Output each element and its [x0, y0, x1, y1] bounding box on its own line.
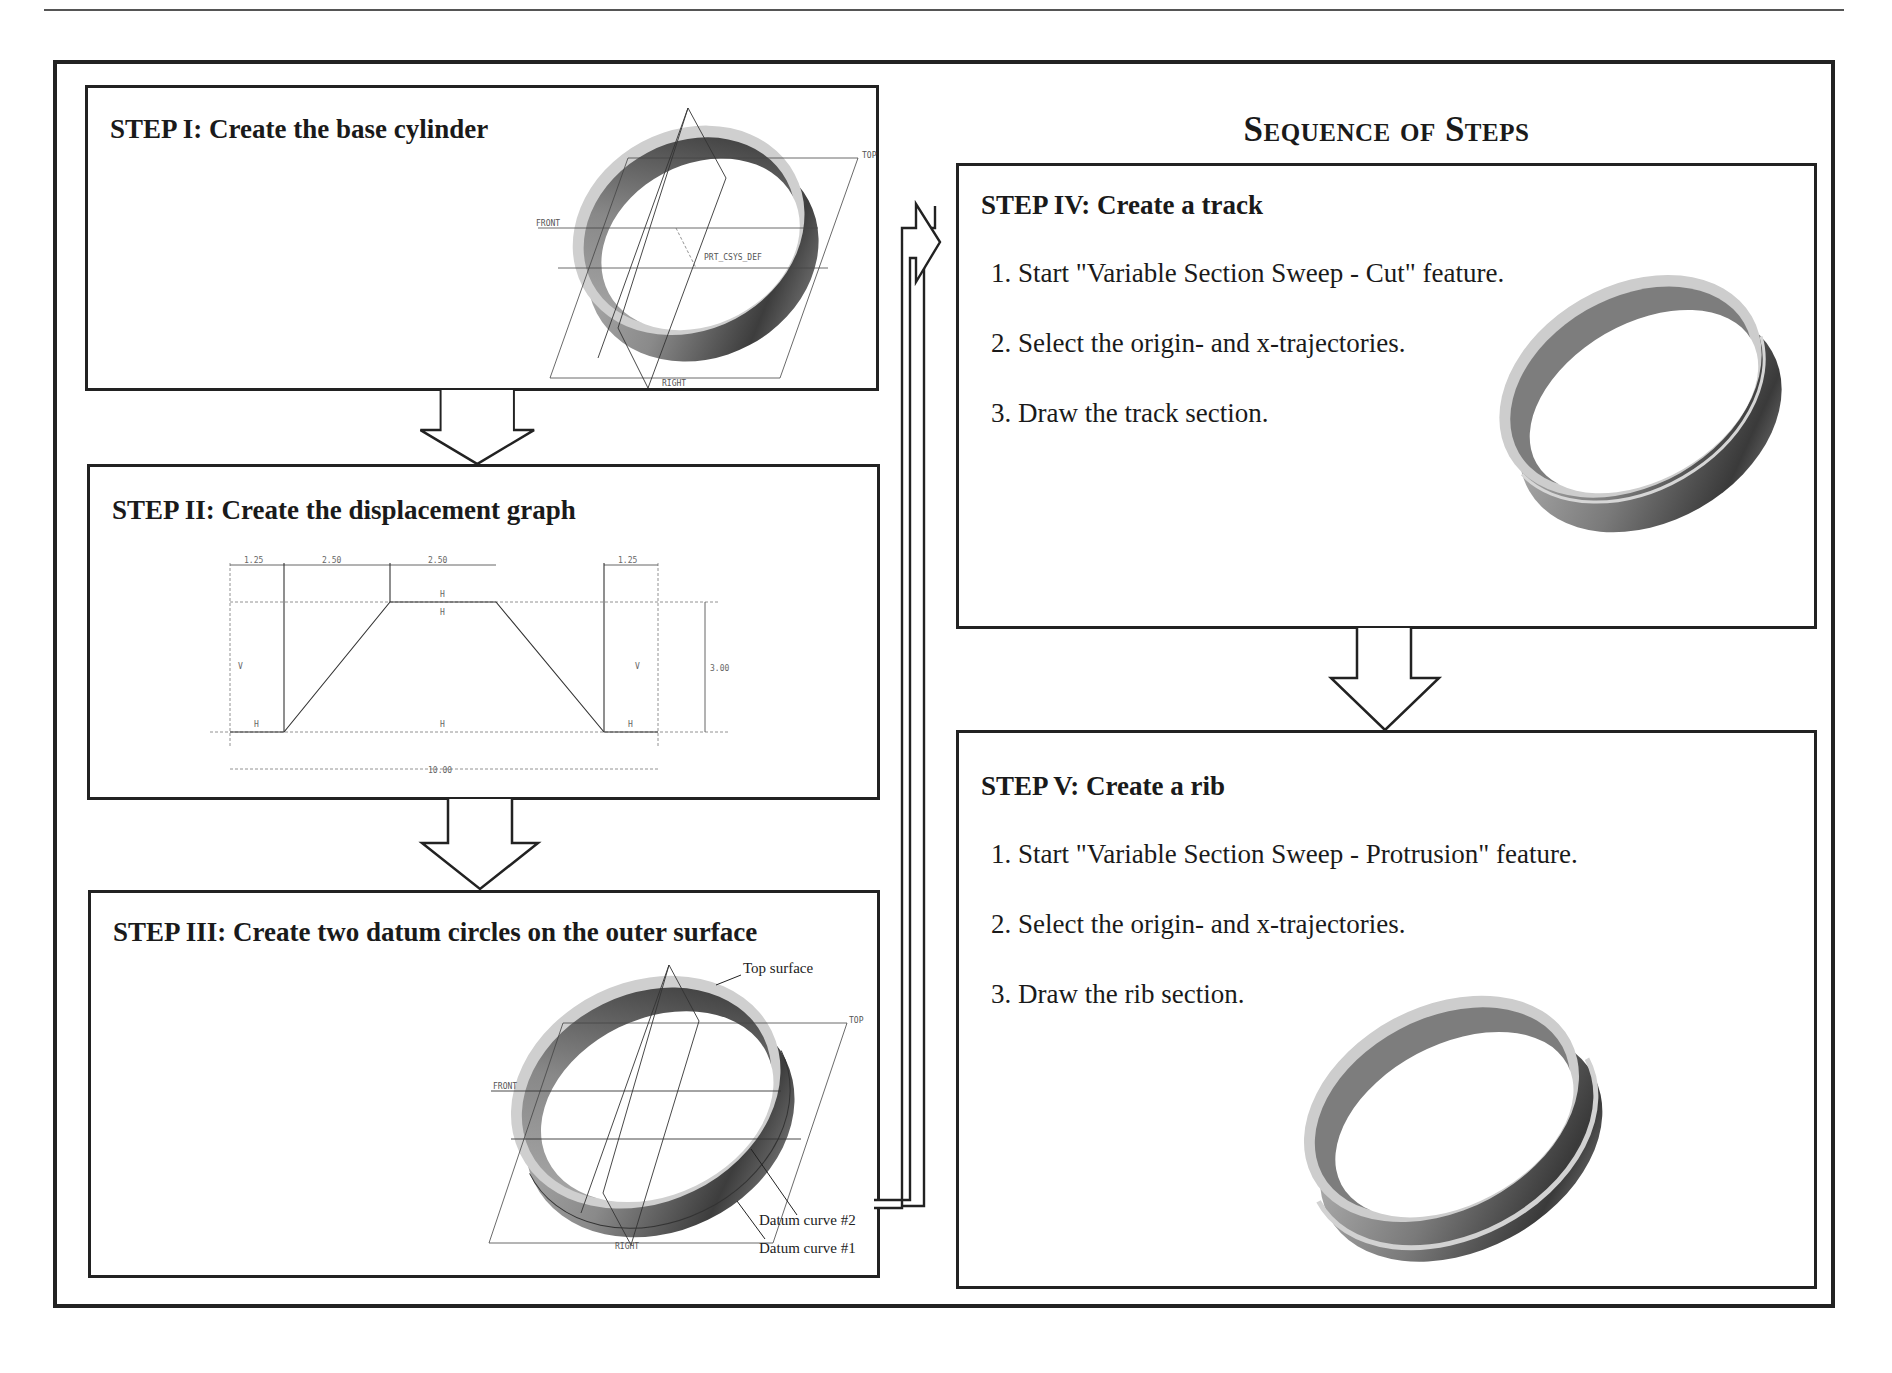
step-5-box: STEP V: Create a rib 1. Start "Variable …: [956, 730, 1817, 1289]
step-5-item-3: 3. Draw the rib section.: [991, 979, 1244, 1010]
step-4-item-2: 2. Select the origin- and x-trajectories…: [991, 328, 1406, 359]
label-top: TOP: [849, 1016, 864, 1025]
dim-2-50-b: 2.50: [428, 556, 447, 565]
label-right: RIGHT: [615, 1242, 639, 1251]
step-2-box: STEP II: Create the displacement graph 1…: [87, 464, 880, 800]
label-front: FRONT: [536, 219, 560, 228]
dim-height: 3.00: [710, 664, 729, 673]
label-right: RIGHT: [662, 379, 686, 388]
mark-h-2: H: [440, 590, 445, 599]
step-2-title: STEP II: Create the displacement graph: [112, 495, 576, 526]
step-5-ring-figure: [1289, 973, 1609, 1273]
step-5-title: STEP V: Create a rib: [981, 771, 1225, 802]
mark-h-5: H: [628, 720, 633, 729]
arrow-down-2-icon: [428, 799, 538, 891]
step-5-item-1: 1. Start "Variable Section Sweep - Protr…: [991, 839, 1578, 870]
callout-top-surface: Top surface: [743, 960, 814, 976]
label-top: TOP: [862, 151, 877, 160]
page-top-rule: [44, 9, 1844, 11]
mark-h-4: H: [440, 720, 445, 729]
step-4-ring-figure: [1489, 256, 1789, 546]
dim-1-25-left: 1.25: [244, 556, 263, 565]
callout-datum-curve-2: Datum curve #2: [759, 1212, 856, 1228]
mark-h-1: H: [254, 720, 259, 729]
mark-v-left: V: [238, 662, 243, 671]
step-4-item-1: 1. Start "Variable Section Sweep - Cut" …: [991, 258, 1504, 289]
step-4-title: STEP IV: Create a track: [981, 190, 1263, 221]
step-1-box: STEP I: Create the base cylinder: [85, 85, 879, 391]
step-5-item-2: 2. Select the origin- and x-trajectories…: [991, 909, 1406, 940]
dim-1-25-right: 1.25: [618, 556, 637, 565]
step-1-title: STEP I: Create the base cylinder: [110, 114, 488, 145]
label-front: FRONT: [493, 1082, 517, 1091]
arrow-down-3-icon: [1333, 628, 1443, 732]
step-4-item-3: 3. Draw the track section.: [991, 398, 1268, 429]
label-csys: PRT_CSYS_DEF: [704, 253, 762, 262]
step-3-title: STEP III: Create two datum circles on th…: [113, 917, 757, 948]
mark-v-right: V: [635, 662, 640, 671]
displacement-graph: 1.25 2.50 2.50 1.25 3.00 10.00 V H H H H…: [210, 557, 730, 787]
step-3-box: STEP III: Create two datum circles on th…: [88, 890, 880, 1278]
step-4-box: STEP IV: Create a track 1. Start "Variab…: [956, 163, 1817, 629]
dim-2-50-a: 2.50: [322, 556, 341, 565]
callout-datum-curve-1: Datum curve #1: [759, 1240, 856, 1256]
connector-arrow-icon: [878, 200, 958, 1210]
mark-h-3: H: [440, 608, 445, 617]
sequence-title: Sequence of Steps: [956, 110, 1817, 150]
step-3-ring-figure: FRONT TOP RIGHT Top surface Datum curve …: [481, 953, 881, 1273]
step-1-ring-figure: FRONT TOP RIGHT PRT_CSYS_DEF: [528, 108, 868, 388]
arrow-down-1-icon: [425, 390, 535, 466]
dim-total: 10.00: [428, 766, 452, 775]
